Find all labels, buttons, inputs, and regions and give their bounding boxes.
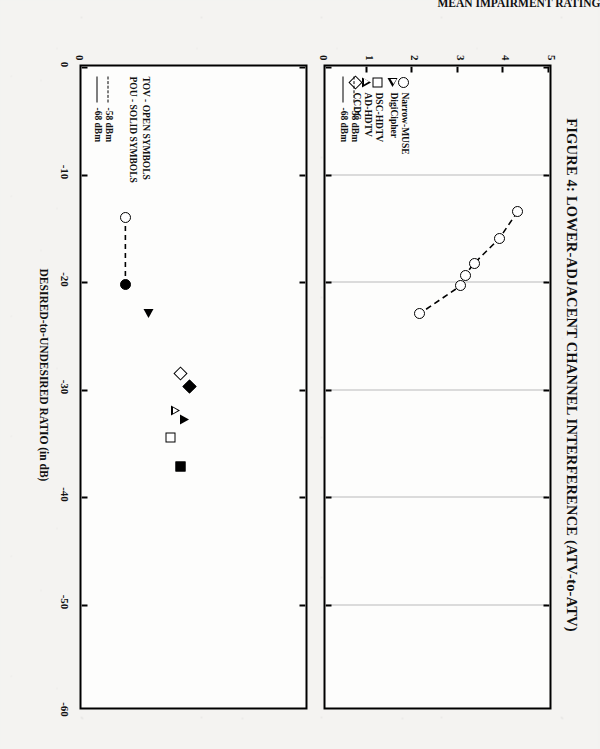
y-axis-tick-label: 1 — [363, 46, 375, 60]
legend-label: DSC-HDTV — [372, 92, 383, 142]
circle-open-icon — [398, 76, 409, 87]
bottom-plot-area — [81, 66, 305, 707]
legend-note: TOV - OPEN SYMBOLS — [138, 76, 151, 182]
legend-item: -68 dBm — [337, 76, 348, 142]
x-axis-tick-label: 0 — [58, 61, 70, 67]
data-point-marker — [119, 279, 130, 290]
legend-label: -58 dBm — [348, 107, 359, 142]
solid-line-icon — [96, 76, 97, 102]
top-series-line — [325, 66, 549, 707]
x-axis-tick-label: -20 — [58, 272, 70, 287]
data-point-marker — [362, 77, 371, 87]
data-point-marker — [468, 257, 479, 268]
notes-legend: TOV - OPEN SYMBOLSPOU - SOLID SYMBOLS — [125, 76, 151, 182]
legend-item: DSC-HDTV — [372, 76, 383, 154]
data-point-marker — [143, 309, 153, 318]
top-plot-area — [325, 66, 549, 707]
legend-label: AD-HDTV — [361, 92, 372, 136]
legend-label: -68 dBm — [337, 107, 348, 142]
data-point-marker — [175, 461, 185, 471]
data-point-marker — [398, 76, 409, 87]
triangle-left-open-icon — [361, 76, 372, 87]
data-point-marker — [171, 405, 180, 415]
top-y-axis-title: MEAN IMPAIRMENT RATING — [437, 0, 600, 8]
x-axis-title: DESIRED-to-UNDESIRED RATIO (in dB) — [37, 0, 49, 749]
level-legend-bottom: -58 dBm-68 dBm — [91, 76, 113, 142]
x-axis-tick-label: -50 — [58, 594, 70, 609]
y-axis-tick-label: 5 — [545, 46, 557, 60]
y-axis-tick-label: 2 — [408, 46, 420, 60]
legend-item: DigiCipher — [387, 76, 398, 154]
legend-note: POU - SOLID SYMBOLS — [125, 76, 138, 182]
top-chart-panel — [323, 64, 551, 709]
data-point-marker — [165, 432, 175, 442]
dashed-line-icon — [353, 76, 354, 102]
data-point-marker — [493, 233, 504, 244]
square-open-icon — [372, 76, 383, 87]
legend-label: DigiCipher — [387, 92, 398, 137]
y-axis-tick-label: 3 — [454, 46, 466, 60]
data-point-marker — [459, 269, 470, 280]
x-axis-tick-label: -30 — [58, 379, 70, 394]
legend-label: -68 dBm — [91, 107, 102, 142]
symbol-legend-group-1: Narrow-MUSEDigiCipher — [387, 76, 409, 154]
x-axis-tick-label: -40 — [58, 487, 70, 502]
legend-item: -68 dBm — [91, 76, 102, 142]
y-axis-tick-label: 0 — [317, 46, 329, 60]
legend-item: -58 dBm — [348, 76, 359, 142]
legend-label: -58 dBm — [102, 107, 113, 142]
y-axis-tick-label: 0 — [73, 46, 85, 60]
x-axis-tick-label: -10 — [58, 164, 70, 179]
legend-item: Narrow-MUSE — [398, 76, 409, 154]
figure-title: FIGURE 4: LOWER-ADJACENT CHANNEL INTERFE… — [562, 0, 579, 749]
bottom-chart-panel — [79, 64, 307, 709]
data-point-marker — [119, 211, 130, 222]
data-point-marker — [388, 77, 398, 86]
dashed-line-icon — [107, 76, 108, 102]
data-point-marker — [414, 308, 425, 319]
legend-item: -58 dBm — [102, 76, 113, 142]
data-point-marker — [180, 414, 189, 424]
x-axis-tick-label: -60 — [58, 702, 70, 717]
y-axis-tick-label: 4 — [499, 46, 511, 60]
solid-line-icon — [342, 76, 343, 102]
data-point-marker — [512, 206, 523, 217]
data-point-marker — [455, 280, 466, 291]
level-legend-top: -58 dBm-68 dBm — [337, 76, 359, 142]
triangle-right-open-icon — [387, 76, 398, 87]
legend-label: Narrow-MUSE — [398, 92, 409, 154]
legend-item: AD-HDTV — [361, 76, 372, 154]
data-point-marker — [373, 77, 383, 87]
